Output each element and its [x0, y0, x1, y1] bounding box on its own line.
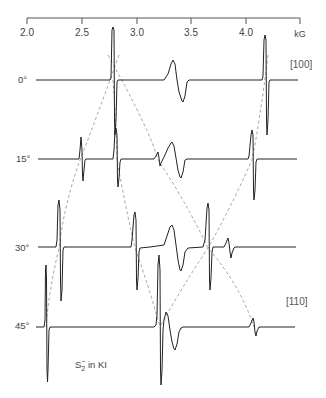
sample-host: in KI: [85, 359, 107, 370]
angle-label-30: 30°: [15, 243, 29, 253]
angle-label-0: 0°: [18, 75, 27, 85]
x-tick-label-2.0: 2.0: [20, 28, 34, 38]
direction-label-100: [100]: [290, 60, 312, 70]
spectrum-15deg: [38, 128, 297, 200]
epr-spectra-figure: 2.0 2.5 3.0 3.5 4.0 kG 0° 15° 30° 45° [1…: [0, 0, 326, 398]
spectrum-30deg: [38, 200, 296, 301]
x-tick-label-3.0: 3.0: [130, 28, 144, 38]
x-axis-unit-label: kG: [294, 29, 306, 39]
angle-label-45: 45°: [15, 321, 29, 331]
x-tick-label-2.5: 2.5: [75, 28, 89, 38]
dashed-angular-curves: [46, 55, 268, 327]
x-tick-label-4.0: 4.0: [239, 28, 253, 38]
angle-label-15: 15°: [16, 154, 30, 164]
x-tick-label-3.5: 3.5: [184, 28, 198, 38]
spectrum-0deg: [36, 27, 298, 135]
sample-label: S2− in KI: [75, 357, 107, 374]
direction-label-110: [110]: [286, 297, 308, 307]
x-axis: [27, 18, 300, 24]
plot-area: [0, 0, 326, 398]
